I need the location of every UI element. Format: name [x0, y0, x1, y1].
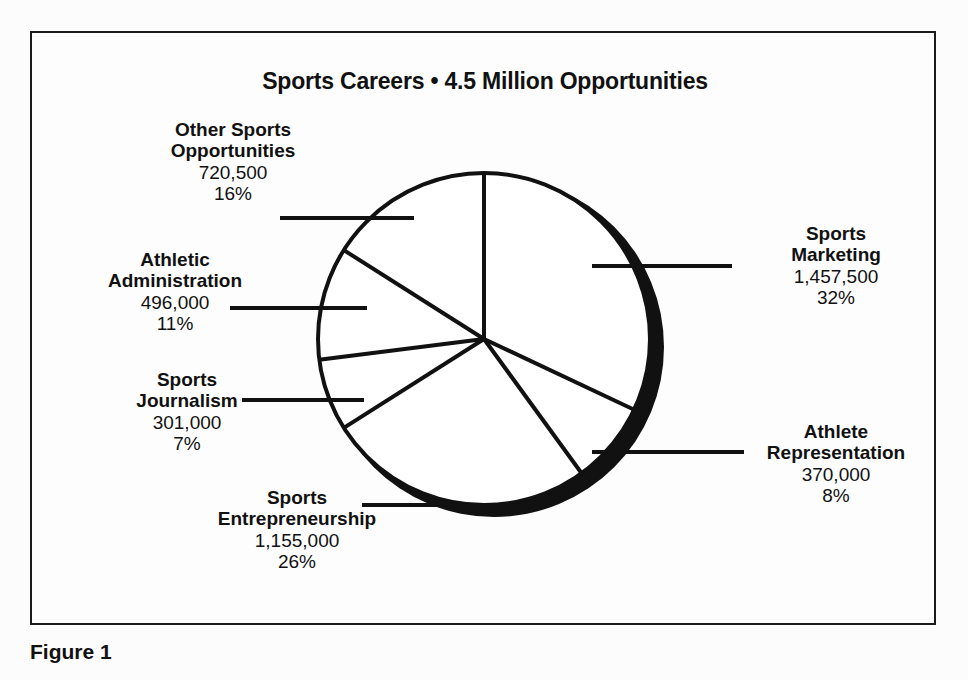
slice-label-value: 1,155,000: [182, 530, 412, 551]
slice-label-athlete-representation: Athlete Representation 370,000 8%: [736, 421, 936, 506]
slice-label-name-line2: Representation: [736, 442, 936, 463]
slice-label-percent: 8%: [736, 485, 936, 506]
slice-label-value: 1,457,500: [738, 266, 934, 287]
slice-label-sports-marketing: Sports Marketing 1,457,500 32%: [738, 223, 934, 308]
pie-body: [318, 173, 664, 517]
slice-label-name-line1: Athlete: [736, 421, 936, 442]
slice-label-value: 301,000: [92, 412, 282, 433]
slice-label-name-line2: Marketing: [738, 244, 934, 265]
slice-label-name-line1: Sports: [738, 223, 934, 244]
slice-label-value: 496,000: [68, 292, 282, 313]
slice-label-name-line1: Sports: [92, 369, 282, 390]
slice-label-athletic-administration: Athletic Administration 496,000 11%: [68, 249, 282, 334]
slice-label-name-line2: Entrepreneurship: [182, 508, 412, 529]
slice-label-name-line2: Journalism: [92, 390, 282, 411]
slice-label-name-line1: Other Sports: [128, 119, 338, 140]
slice-label-percent: 32%: [738, 287, 934, 308]
slice-label-value: 720,500: [128, 162, 338, 183]
slice-label-percent: 16%: [128, 183, 338, 204]
slice-label-sports-journalism: Sports Journalism 301,000 7%: [92, 369, 282, 454]
slice-label-name-line1: Sports: [182, 487, 412, 508]
slice-label-value: 370,000: [736, 464, 936, 485]
slice-label-percent: 7%: [92, 433, 282, 454]
figure-frame: Sports Careers • 4.5 Million Opportuniti…: [30, 31, 936, 625]
page-canvas: Sports Careers • 4.5 Million Opportuniti…: [0, 0, 968, 680]
slice-label-percent: 11%: [68, 313, 282, 334]
figure-caption: Figure 1: [30, 640, 112, 664]
slice-label-percent: 26%: [182, 551, 412, 572]
slice-label-name-line2: Opportunities: [128, 140, 338, 161]
slice-label-other-sports-opportunities: Other Sports Opportunities 720,500 16%: [128, 119, 338, 204]
slice-label-name-line1: Athletic: [68, 249, 282, 270]
slice-label-sports-entrepreneurship: Sports Entrepreneurship 1,155,000 26%: [182, 487, 412, 572]
slice-label-name-line2: Administration: [68, 270, 282, 291]
